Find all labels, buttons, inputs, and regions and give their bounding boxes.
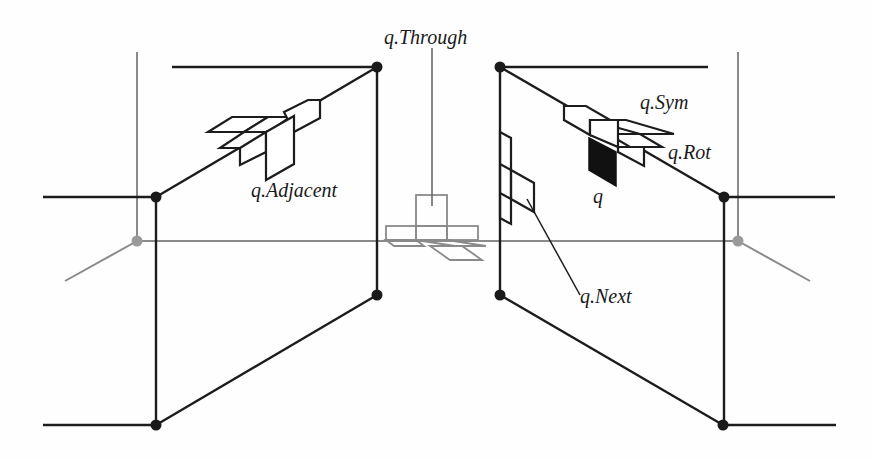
label-rot: q.Rot — [668, 141, 711, 164]
node-right-bottom-left — [495, 290, 506, 301]
label-q: q — [593, 185, 603, 208]
adjacent-cube-net — [208, 100, 320, 180]
label-adjacent: q.Adjacent — [251, 179, 338, 202]
left-bottom-diagonal — [156, 295, 377, 425]
left-panel — [43, 67, 377, 425]
next-leader-line — [527, 199, 580, 295]
right-bottom-diagonal — [500, 295, 723, 425]
node-left-mid-left — [151, 192, 162, 203]
next-cube-net — [500, 132, 534, 224]
gray-right-diagonal — [738, 241, 810, 281]
gray-left-diagonal — [65, 241, 137, 281]
label-next: q.Next — [580, 285, 632, 308]
node-right-top-left — [495, 62, 506, 73]
label-sym: q.Sym — [640, 91, 688, 114]
node-left-bottom-right — [372, 290, 383, 301]
label-through: q.Through — [384, 26, 467, 49]
diagram-svg: q.Through q.Adjacent q.Sym q.Rot q q.Nex… — [0, 0, 872, 459]
node-left-bottom-left — [151, 420, 162, 431]
node-gray-right — [733, 236, 744, 247]
node-right-mid-right — [719, 192, 730, 203]
node-gray-left — [132, 236, 143, 247]
node-right-bottom-right — [718, 420, 729, 431]
node-left-top-right — [372, 62, 383, 73]
right-panel — [500, 67, 836, 425]
through-cube-net — [386, 195, 486, 260]
sym-rot-cube-net — [564, 106, 674, 166]
diagram-canvas: q.Through q.Adjacent q.Sym q.Rot q q.Nex… — [0, 0, 872, 459]
